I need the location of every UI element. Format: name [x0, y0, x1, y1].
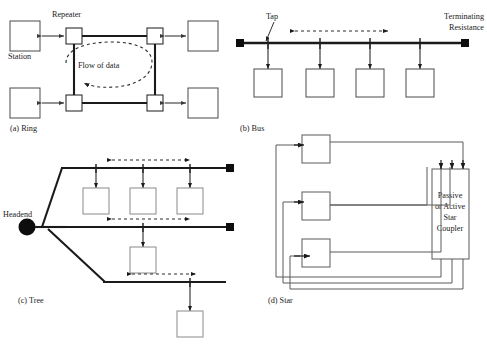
star-station-1[interactable] — [302, 135, 330, 163]
star-station-2[interactable] — [302, 192, 330, 220]
ring-station-label: Station — [8, 52, 31, 61]
tree-riser-up — [42, 168, 62, 227]
tree-station-4[interactable] — [130, 247, 156, 273]
ring-caption: (a) Ring — [10, 124, 37, 133]
tree-station-2[interactable] — [130, 188, 156, 214]
bus-tap-label: Tap — [266, 12, 278, 21]
tree-station-1[interactable] — [83, 188, 109, 214]
bus-terminator-left — [236, 39, 244, 47]
star-outbound-link-1 — [330, 142, 463, 167]
star-stations — [302, 135, 330, 267]
ring-station-3[interactable] — [10, 88, 40, 118]
bus-station-4[interactable] — [406, 69, 434, 97]
topology-diagram-svg: Station Repeater Flow of data (a) Ring — [0, 0, 487, 347]
tree-branch-2-terminator — [226, 223, 234, 231]
bus-topology: Tap Terminating Resistance (b) Bus — [236, 12, 484, 133]
network-topologies-figure: Station Repeater Flow of data (a) Ring — [0, 0, 487, 347]
ring-flow-label: Flow of data — [78, 61, 120, 70]
star-outbound-routing — [330, 167, 427, 205]
tree-station-3[interactable] — [177, 188, 203, 214]
tree-branch-2 — [64, 219, 234, 273]
star-coupler-inputs — [441, 160, 463, 169]
tree-headend-label: Headend — [3, 210, 32, 219]
tree-branch-1 — [61, 160, 234, 214]
bus-station-1[interactable] — [254, 69, 282, 97]
star-outbound-riser-2 — [330, 167, 427, 205]
bus-terminating-label-line2: Resistance — [449, 23, 484, 32]
bus-caption: (b) Bus — [240, 124, 264, 133]
tree-caption: (c) Tree — [18, 296, 44, 305]
repeater-node-3[interactable] — [66, 95, 82, 111]
star-caption: (d) Star — [268, 296, 293, 305]
star-station-3[interactable] — [302, 239, 330, 267]
ring-repeater-label: Repeater — [52, 10, 81, 19]
star-outbound-link-3 — [330, 167, 441, 252]
tree-riser-down — [48, 229, 105, 282]
tree-topology: Headend — [3, 160, 234, 337]
ring-station-1[interactable] — [10, 21, 40, 51]
repeater-node-2[interactable] — [147, 28, 163, 44]
tree-station-5[interactable] — [177, 311, 203, 337]
bus-tap-pointer — [266, 22, 274, 41]
bus-terminating-label-line1: Terminating — [444, 12, 484, 21]
bus-drops — [254, 38, 434, 97]
ring-station-4[interactable] — [188, 88, 218, 118]
star-return-link-1 — [276, 145, 441, 277]
repeater-node-1[interactable] — [66, 28, 82, 44]
bus-station-2[interactable] — [306, 69, 334, 97]
tree-branch-1-terminator — [226, 164, 234, 172]
repeater-node-4[interactable] — [147, 95, 163, 111]
ring-station-2[interactable] — [188, 21, 218, 51]
bus-station-3[interactable] — [356, 69, 384, 97]
ring-topology: Station Repeater Flow of data (a) Ring — [8, 10, 218, 133]
tree-headend-node[interactable] — [19, 219, 36, 236]
tree-branch-3 — [103, 274, 226, 337]
star-coupler-line-3: Star — [443, 213, 456, 222]
bus-terminator-right — [461, 39, 469, 47]
star-topology: Passive or Active Star Coupler — [268, 135, 469, 305]
